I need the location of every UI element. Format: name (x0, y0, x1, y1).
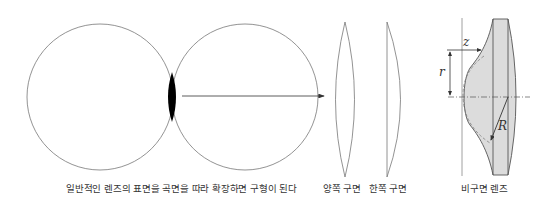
r-label: r (439, 65, 445, 79)
caption-planoconvex: 한쪽 구면 (369, 181, 407, 195)
left-sphere (27, 24, 173, 170)
lens-intersection (168, 72, 176, 122)
planoconvex-lens (387, 22, 401, 177)
z-label: z (463, 35, 469, 49)
caption-sphere: 일반적인 렌즈의 표면을 곡면을 따라 확장하면 구형이 된다 (66, 181, 297, 195)
biconvex-lens (336, 22, 355, 177)
sphere-construction (27, 24, 324, 170)
right-sphere (172, 24, 318, 170)
lens-diagram-svg (0, 0, 552, 207)
big-r-label: R (498, 119, 507, 133)
aspheric-lens (447, 18, 530, 176)
diagram: z r R 일반적인 렌즈의 표면을 곡면을 따라 확장하면 구형이 된다 양쪽… (0, 0, 552, 207)
caption-aspheric: 비구면 렌즈 (461, 181, 508, 195)
caption-biconvex: 양쪽 구면 (323, 181, 361, 195)
